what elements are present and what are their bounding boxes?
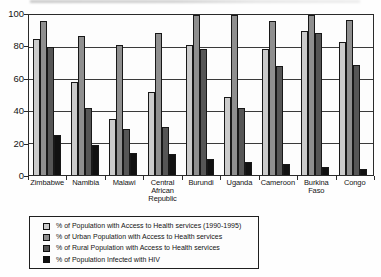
bar-group-namibia [67, 15, 105, 175]
bar-series3-cameroon [276, 66, 283, 175]
bar-series2-namibia [78, 36, 85, 175]
bar-series1-zimbabwe [33, 39, 40, 175]
bar-series3-uganda [238, 108, 245, 175]
bar-series1-burundi [186, 45, 193, 175]
plot-area [28, 14, 374, 176]
bar-series4-congo [360, 169, 367, 175]
bar-series4-malawi [130, 153, 137, 175]
y-tick-label: 100 [0, 9, 24, 19]
bar-group-zimbabwe [29, 15, 67, 175]
bar-group-burkina-faso [297, 15, 335, 175]
bar-group-cameroon [258, 15, 296, 175]
y-tick-label: 20 [0, 139, 24, 149]
y-tick-80 [24, 46, 28, 47]
bar-series3-burkina-faso [315, 33, 322, 175]
bar-series1-malawi [109, 119, 116, 175]
legend-label: % of Rural Population with Access to Hea… [56, 244, 220, 252]
y-tick-label: 80 [0, 41, 24, 51]
bar-group-uganda [220, 15, 258, 175]
x-axis-labels: ZimbabweNamibiaMalawiCentralAfricanRepub… [28, 179, 374, 203]
bar-group-burundi [182, 15, 220, 175]
bar-group-congo [335, 15, 373, 175]
legend-swatch-icon [43, 234, 50, 241]
bar-group-malawi [105, 15, 143, 175]
bar-series3-central-african-republic [162, 127, 169, 175]
y-tick-20 [24, 144, 28, 145]
y-tick-label: 0 [0, 171, 24, 181]
bar-series3-namibia [85, 108, 92, 175]
bar-series2-zimbabwe [40, 21, 47, 175]
bar-groups [29, 15, 373, 175]
bar-series3-zimbabwe [47, 47, 54, 175]
bar-series2-cameroon [269, 21, 276, 175]
bar-series2-central-african-republic [155, 33, 162, 175]
legend-item-2: % of Urban Population with Access to Hea… [43, 233, 254, 241]
bar-series1-burkina-faso [301, 31, 308, 175]
x-category-label-namibia: Namibia [66, 179, 104, 203]
x-category-label-central-african-republic: CentralAfricanRepublic [143, 179, 181, 203]
legend-item-3: % of Rural Population with Access to Hea… [43, 244, 254, 252]
y-tick-40 [24, 111, 28, 112]
bar-series2-burkina-faso [308, 15, 315, 175]
bar-series2-uganda [231, 15, 238, 175]
bar-series1-central-african-republic [148, 92, 155, 175]
bar-series3-malawi [123, 129, 130, 175]
bar-series4-cameroon [283, 164, 290, 175]
bar-series4-burkina-faso [322, 167, 329, 175]
bar-series2-burundi [193, 15, 200, 175]
x-category-label-zimbabwe: Zimbabwe [28, 179, 66, 203]
x-category-label-uganda: Uganda [220, 179, 258, 203]
legend-swatch-icon [43, 223, 50, 230]
bar-group-central-african-republic [144, 15, 182, 175]
bar-series1-uganda [224, 97, 231, 175]
bar-series4-namibia [92, 145, 99, 175]
bar-series2-malawi [116, 45, 123, 175]
bar-series1-congo [339, 42, 346, 175]
legend-label: % of Population Infected with HIV [56, 256, 160, 264]
y-tick-100 [24, 14, 28, 15]
bar-series4-uganda [245, 162, 252, 175]
bar-series4-zimbabwe [54, 135, 61, 175]
legend-swatch-icon [43, 245, 50, 252]
x-category-label-burkina-faso: BurkinaFaso [297, 179, 335, 203]
bar-series4-burundi [207, 159, 214, 175]
legend-label: % of Population with Access to Health se… [56, 222, 241, 230]
y-tick-60 [24, 79, 28, 80]
bar-series3-congo [353, 65, 360, 175]
x-category-label-cameroon: Cameroon [259, 179, 297, 203]
bar-series2-congo [346, 20, 353, 175]
bar-chart-figure: 020406080100 ZimbabweNamibiaMalawiCentra… [0, 0, 381, 277]
x-category-label-congo: Congo [336, 179, 374, 203]
bar-series1-namibia [71, 82, 78, 175]
y-tick-label: 40 [0, 106, 24, 116]
legend: % of Population with Access to Health se… [29, 216, 259, 269]
y-tick-label: 60 [0, 74, 24, 84]
bar-series1-cameroon [262, 49, 269, 175]
legend-item-1: % of Population with Access to Health se… [43, 222, 254, 230]
x-category-label-burundi: Burundi [182, 179, 220, 203]
x-tick [374, 176, 375, 180]
bar-series4-central-african-republic [169, 154, 176, 175]
x-category-label-malawi: Malawi [105, 179, 143, 203]
scan-artifact [30, 0, 360, 3]
legend-item-4: % of Population Infected with HIV [43, 256, 254, 264]
bar-series3-burundi [200, 49, 207, 175]
legend-label: % of Urban Population with Access to Hea… [56, 233, 222, 241]
legend-swatch-icon [43, 256, 50, 263]
